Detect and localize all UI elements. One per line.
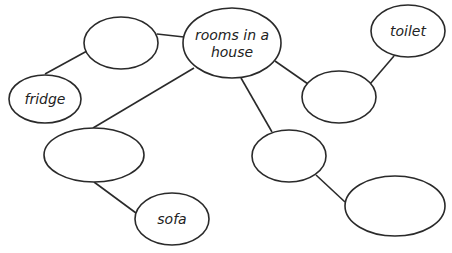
node-label: fridge (25, 91, 66, 107)
node-label: sofa (157, 211, 186, 227)
ellipse-a (84, 17, 158, 69)
edge-d-e (316, 175, 345, 202)
node-label: rooms in a (195, 27, 269, 43)
node-center: rooms in ahouse (183, 8, 281, 78)
edge-center-c (93, 68, 194, 128)
ellipse-c (44, 128, 144, 182)
node-label: house (211, 44, 253, 60)
ellipse-d (252, 130, 326, 182)
node-label: toilet (390, 23, 426, 39)
edge-a-center (157, 34, 184, 37)
edge-a-fridge (45, 51, 87, 74)
node-toilet: toilet (371, 5, 445, 57)
node-ellipses: rooms in ahousefridgetoiletsofa (9, 5, 445, 245)
node-a (84, 17, 158, 69)
ellipse-e (345, 176, 445, 236)
node-fridge: fridge (9, 75, 81, 123)
node-sofa: sofa (135, 193, 209, 245)
ellipse-b (302, 71, 376, 123)
node-d (252, 130, 326, 182)
edge-center-b (275, 61, 308, 84)
node-c (44, 128, 144, 182)
edge-c-sofa (94, 182, 136, 213)
edge-center-d (241, 78, 272, 132)
edge-toilet-b (370, 56, 394, 84)
mind-map-canvas: rooms in ahousefridgetoiletsofa (0, 0, 452, 253)
node-b (302, 71, 376, 123)
node-e (345, 176, 445, 236)
